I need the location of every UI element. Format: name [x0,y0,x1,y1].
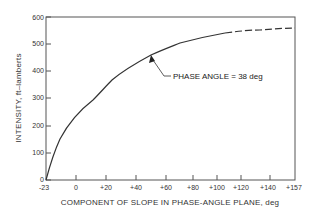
y-tick-label: 200 [32,122,44,129]
chart: 0 100 200 300 400 500 600 -23 0 +20 +40 … [0,0,311,214]
x-tick-label: +60 [160,184,172,191]
y-tick-label: 100 [32,149,44,156]
x-tick-label: +157 [286,184,302,191]
x-tick-label: +40 [130,184,142,191]
annotation-label: PHASE ANGLE = 38 deg [173,72,263,81]
y-axis-title: INTENSITY, ft–lamberts [14,53,23,142]
data-line-solid [46,33,225,180]
x-tick-label: +120 [233,184,249,191]
data-line-dashed [225,28,295,33]
plot-frame [46,17,295,180]
x-tick-label: -23 [39,184,49,191]
x-tick-label: +80 [187,184,199,191]
x-tick-label: +20 [100,184,112,191]
y-tick-label: 0 [40,176,44,183]
y-tick-label: 300 [32,94,44,101]
y-axis [46,17,51,180]
y-tick-label: 400 [32,67,44,74]
y-tick-label: 500 [32,40,44,47]
x-tick-label: +140 [260,184,276,191]
x-tick-label: +100 [209,184,225,191]
x-axis-title: COMPONENT OF SLOPE IN PHASE-ANGLE PLANE,… [61,198,280,207]
x-tick-label: 0 [74,184,78,191]
y-tick-label: 600 [32,14,44,21]
x-axis [76,175,270,180]
annotation-arrow [149,55,171,76]
